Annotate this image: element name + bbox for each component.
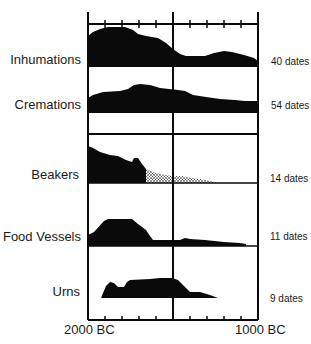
x-axis-end-label: 1000 BC bbox=[235, 322, 286, 337]
series-label-food-vessels: Food Vessels bbox=[3, 229, 81, 244]
series-label-beakers: Beakers bbox=[31, 167, 79, 182]
count-label-food-vessels: 11 dates bbox=[270, 231, 308, 242]
count-label-beakers: 14 dates bbox=[270, 173, 308, 184]
x-axis-start-label: 2000 BC bbox=[64, 322, 115, 337]
series-label-inhumations: Inhumations bbox=[10, 52, 81, 67]
urns-area bbox=[101, 278, 218, 298]
count-label-cremations: 54 dates bbox=[271, 100, 309, 111]
food-vessels-area bbox=[88, 219, 246, 246]
count-label-inhumations: 40 dates bbox=[271, 56, 309, 67]
count-label-urns: 9 dates bbox=[270, 293, 303, 304]
series-label-urns: Urns bbox=[53, 284, 80, 299]
beakers-area-solid bbox=[88, 146, 152, 183]
beakers-area-stippled bbox=[146, 169, 218, 183]
series-label-cremations: Cremations bbox=[15, 97, 81, 112]
